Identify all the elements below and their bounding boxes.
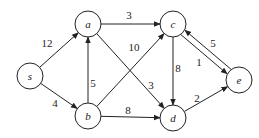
node-label: c (171, 18, 176, 30)
directed-weighted-graph: 1245331088512sabcde (0, 0, 259, 138)
node-label: b (85, 110, 91, 122)
edge-s-b (41, 83, 78, 108)
edge-weight-label: 4 (52, 97, 58, 109)
edge-weight-label: 3 (126, 9, 132, 21)
edge-weight-label: 1 (196, 56, 202, 68)
edge-weight-label: 3 (148, 79, 154, 91)
graph-diagram: 1245331088512sabcde (0, 0, 259, 138)
edge-weight-label: 5 (210, 37, 216, 49)
edge-weight-label: 12 (42, 37, 53, 49)
node-label: s (28, 70, 32, 82)
edge-weight-label: 8 (175, 62, 181, 74)
edge-weight-label: 8 (125, 104, 131, 116)
edge-c-e (181, 35, 227, 74)
node-label: e (237, 74, 242, 86)
edge-b-d (101, 116, 160, 117)
edge-weight-label: 10 (129, 41, 141, 53)
edge-weight-label: 2 (194, 92, 200, 104)
edge-d-e (184, 86, 227, 111)
edge-e-c (185, 30, 231, 69)
node-label: d (170, 112, 176, 124)
node-label: a (85, 18, 91, 30)
edge-weight-label: 5 (90, 77, 96, 89)
